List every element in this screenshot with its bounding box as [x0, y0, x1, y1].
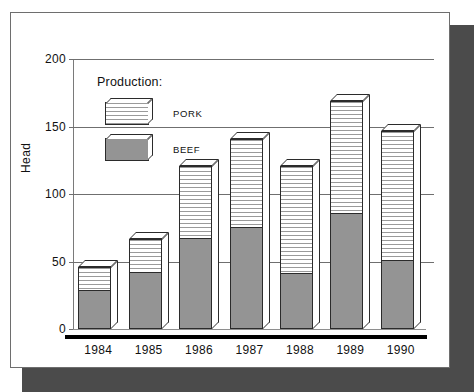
legend-title: Production:: [97, 75, 247, 89]
bar-1987[interactable]: [230, 139, 263, 329]
bar-1986-side-face: [212, 159, 219, 329]
stacked-bar-chart: Head 050100150200 1984198519861987198819…: [11, 13, 451, 369]
bar-1990-segment-pork: [382, 132, 413, 260]
bar-1987-front-face: [230, 139, 263, 329]
bar-1985-segment-beef: [130, 272, 161, 329]
y-tick-label-50: 50: [52, 255, 66, 269]
legend-label-pork: PORK: [173, 108, 202, 119]
bar-1986-segment-pork: [180, 167, 211, 239]
y-tick-right-200: [427, 59, 434, 60]
legend-swatch-beef-top-face: [106, 134, 153, 139]
x-tick-label-1989: 1989: [336, 343, 364, 357]
screenshot-root: Head 050100150200 1984198519861987198819…: [0, 0, 474, 392]
x-tick-label-1987: 1987: [236, 343, 264, 357]
y-tick-label-150: 150: [45, 120, 66, 134]
bar-1988-top-face: [280, 159, 320, 166]
chart-card: Head 050100150200 1984198519861987198819…: [10, 12, 450, 368]
x-axis-tick-labels: 1984198519861987198819891990: [73, 343, 426, 363]
bar-1984[interactable]: [78, 267, 111, 329]
y-tick-right-50: [427, 262, 434, 263]
bar-1988-segment-beef: [281, 273, 312, 329]
y-axis-title: Head: [19, 143, 33, 173]
bar-1987-segment-pork: [231, 140, 262, 228]
bar-1984-front-face: [78, 267, 111, 329]
bar-1990-top-face: [381, 124, 421, 131]
bar-1987-side-face: [263, 132, 270, 329]
bar-1985-front-face: [129, 239, 162, 329]
bar-1986-segment-beef: [180, 238, 211, 329]
bar-1989-front-face: [330, 101, 363, 329]
bar-1985-segment-pork: [130, 240, 161, 272]
bar-1988[interactable]: [280, 166, 313, 329]
chart-legend: Production: PORK BEEF: [97, 75, 247, 170]
legend-swatch-pork-top-face: [106, 98, 153, 103]
legend-swatch-beef: [105, 138, 149, 161]
bar-1990-front-face: [381, 131, 414, 329]
x-tick-label-1986: 1986: [185, 343, 213, 357]
bar-1985-side-face: [162, 232, 169, 329]
bar-1987-top-face: [230, 132, 270, 139]
y-tick-label-0: 0: [59, 322, 66, 336]
bar-1985-top-face: [129, 232, 169, 239]
bar-1986-top-face: [179, 159, 219, 166]
bar-1989-side-face: [363, 94, 370, 329]
y-tick-label-100: 100: [45, 187, 66, 201]
legend-swatch-pork-side-face: [148, 98, 153, 124]
legend-item-beef: BEEF: [97, 134, 247, 164]
bar-1989[interactable]: [330, 101, 363, 329]
bar-1990-side-face: [414, 124, 421, 329]
bar-1988-front-face: [280, 166, 313, 329]
bar-1989-segment-pork: [331, 102, 362, 213]
y-tick-label-200: 200: [45, 52, 66, 66]
bar-1984-segment-pork: [79, 268, 110, 290]
legend-label-beef: BEEF: [173, 144, 200, 155]
bar-1986-front-face: [179, 166, 212, 329]
bar-1985[interactable]: [129, 239, 162, 329]
x-tick-label-1985: 1985: [135, 343, 163, 357]
bar-1989-segment-beef: [331, 213, 362, 329]
x-axis-line-thin: [73, 329, 426, 330]
bar-1984-segment-beef: [79, 290, 110, 330]
bar-1990[interactable]: [381, 131, 414, 329]
bar-1984-side-face: [111, 260, 118, 329]
bar-1990-segment-beef: [382, 260, 413, 329]
legend-swatch-beef-side-face: [148, 134, 153, 160]
legend-item-pork: PORK: [97, 98, 247, 128]
legend-swatch-pork: [105, 102, 149, 125]
bar-1987-segment-beef: [231, 227, 262, 329]
y-tick-right-150: [427, 127, 434, 128]
y-tick-right-100: [427, 194, 434, 195]
x-tick-label-1984: 1984: [84, 343, 112, 357]
x-tick-label-1990: 1990: [387, 343, 415, 357]
bar-1986[interactable]: [179, 166, 212, 329]
x-axis-line: [65, 335, 427, 339]
x-tick-label-1988: 1988: [286, 343, 314, 357]
bar-1988-side-face: [313, 159, 320, 329]
bar-1988-segment-pork: [281, 167, 312, 274]
